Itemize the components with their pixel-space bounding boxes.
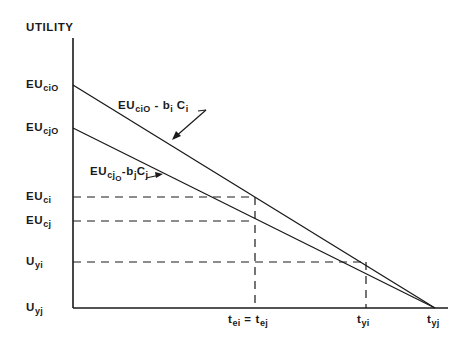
utility-diagram [0,0,472,350]
y-label-eucjo: EUcjO [26,122,59,136]
x-label-tei-tej: tei = tej [228,314,268,328]
x-label-tyj: tyj [427,314,440,328]
y-axis-title: UTILITY [26,22,74,34]
upper-line-label: EUciO - bi Ci [118,100,189,114]
lower-label-arrow-icon [146,172,163,178]
lower-line-label: EUcjO-bjCj [90,166,148,183]
y-label-uyi: Uyi [26,256,43,270]
upper-utility-line [73,85,435,308]
y-label-eucj: EUcj [26,215,51,229]
lower-utility-line [73,128,435,308]
y-label-uyj: Uyj [26,302,43,316]
y-label-euci: EUci [26,191,51,205]
y-label-eucio: EUciO [26,79,59,93]
upper-label-arrow-icon [172,110,206,140]
x-label-tyi: tyi [357,314,370,328]
